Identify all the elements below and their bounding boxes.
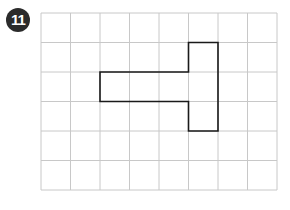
grid-diagram (0, 0, 290, 210)
